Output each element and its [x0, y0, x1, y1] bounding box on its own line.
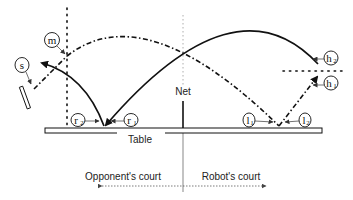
marker-r2: r 2 [71, 114, 99, 128]
svg-text:2: 2 [306, 119, 310, 127]
svg-text:1: 1 [333, 82, 337, 90]
marker-l2: l 2 [285, 113, 311, 127]
table [45, 128, 322, 133]
svg-text:s: s [20, 59, 24, 71]
net-label: Net [175, 86, 191, 97]
svg-text:r: r [74, 114, 78, 126]
svg-text:h: h [326, 52, 332, 64]
marker-l1: l 1 [243, 113, 273, 127]
ping-pong-trajectory-diagram: Table Net m s r 2 r 1 l 1 [0, 0, 353, 200]
marker-s: s [15, 58, 31, 85]
svg-text:1: 1 [133, 119, 137, 127]
svg-text:m: m [48, 34, 57, 46]
paddle [19, 86, 30, 109]
solid-trajectory-incoming [106, 31, 318, 125]
marker-m: m [45, 33, 66, 55]
svg-text:r: r [127, 114, 131, 126]
opponent-court-label: Opponent's court [85, 171, 161, 182]
table-label: Table [128, 134, 152, 145]
svg-text:1: 1 [250, 119, 254, 127]
svg-text:l: l [246, 114, 249, 126]
svg-text:2: 2 [333, 57, 337, 65]
robot-court-label: Robot's court [202, 171, 261, 182]
svg-text:2: 2 [80, 119, 84, 127]
svg-text:h: h [326, 77, 332, 89]
dash-dot-trajectory-paddle-to-m [34, 56, 67, 89]
svg-text:l: l [302, 114, 305, 126]
